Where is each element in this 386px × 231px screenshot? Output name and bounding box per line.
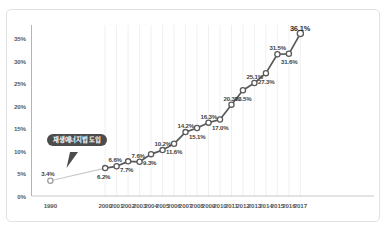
data-point-marker xyxy=(183,130,188,135)
data-point-marker xyxy=(252,80,257,85)
data-point-marker xyxy=(217,117,222,122)
data-point-value-label: 36.1% xyxy=(290,24,310,33)
data-point-value-label: 11.6% xyxy=(166,148,182,155)
data-point-value-label: 6.6% xyxy=(109,156,122,163)
data-point-value-label: 10.2% xyxy=(155,140,172,147)
data-point-marker xyxy=(48,178,53,183)
y-axis-tick-label: 0% xyxy=(4,193,26,200)
y-axis-tick-label: 20% xyxy=(4,103,26,110)
chart-figure: 0%5%10%15%20%25%30%35% 19902000200120022… xyxy=(0,0,386,231)
data-point-value-label: 14.2% xyxy=(178,122,195,129)
data-point-value-label: 23.5% xyxy=(235,95,252,102)
axis-lines xyxy=(32,25,375,196)
data-point-marker xyxy=(137,159,142,164)
data-point-marker xyxy=(286,51,291,56)
y-axis-tick-label: 30% xyxy=(4,58,26,65)
line-chart-plot xyxy=(0,0,386,231)
data-point-value-label: 27.3% xyxy=(258,78,275,85)
callout-pointer xyxy=(67,152,79,168)
y-axis-tick-label: 25% xyxy=(4,80,26,87)
x-axis-tick-label: 2017 xyxy=(288,202,312,209)
data-point-marker xyxy=(229,102,234,107)
data-point-marker xyxy=(240,88,245,93)
x-axis-tick-label: 1990 xyxy=(38,202,62,209)
data-point-marker xyxy=(126,159,131,164)
main-line xyxy=(105,34,300,169)
data-point-value-label: 17.0% xyxy=(212,124,229,131)
data-point-value-label: 31.5% xyxy=(269,44,286,51)
data-point-value-label: 9.3% xyxy=(143,159,156,166)
data-point-value-label: 31.6% xyxy=(281,58,298,65)
annotation-callout-label: 재생에너지법 도입 xyxy=(53,136,101,143)
data-point-value-label: 7.7% xyxy=(120,166,133,173)
data-point-value-label: 16.3% xyxy=(201,113,218,120)
data-point-marker xyxy=(114,164,119,169)
data-series xyxy=(48,30,304,183)
y-axis-tick-label: 5% xyxy=(4,170,26,177)
y-axis-tick-label: 35% xyxy=(4,35,26,42)
data-point-marker xyxy=(275,52,280,57)
data-point-marker xyxy=(206,120,211,125)
data-point-marker xyxy=(103,166,108,171)
data-point-marker xyxy=(263,71,268,76)
y-axis-tick-label: 15% xyxy=(4,125,26,132)
data-point-value-label: 3.4% xyxy=(41,170,54,177)
data-point-marker xyxy=(171,141,176,146)
annotation-callout: 재생에너지법 도입 xyxy=(47,134,107,146)
data-point-markers xyxy=(48,30,304,183)
y-axis-tick-label: 10% xyxy=(4,148,26,155)
data-point-value-label: 6.2% xyxy=(97,173,110,180)
data-point-value-label: 15.1% xyxy=(189,133,206,140)
data-point-marker xyxy=(160,148,165,153)
data-point-marker xyxy=(148,152,153,157)
data-point-marker xyxy=(194,125,199,130)
